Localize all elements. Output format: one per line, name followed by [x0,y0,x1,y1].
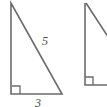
triangle-2-legs [85,3,107,85]
triangle-1-base-label: 3 [35,97,41,107]
triangle-2-hypotenuse [86,3,107,43]
diagram-canvas: 5 3 [0,0,107,107]
triangle-1-right-angle-marker-icon [12,86,20,94]
triangle-1-outline [11,3,62,94]
triangle-1-group [11,3,62,94]
triangle-1-hypotenuse-label: 5 [42,35,48,47]
geometry-figure-svg [0,0,107,107]
triangle-2-group [85,3,107,85]
triangle-2-right-angle-marker-icon [85,77,93,85]
